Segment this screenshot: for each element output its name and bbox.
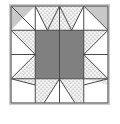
quilt-block-figure <box>0 0 120 124</box>
quilt-block-svg <box>0 0 120 124</box>
